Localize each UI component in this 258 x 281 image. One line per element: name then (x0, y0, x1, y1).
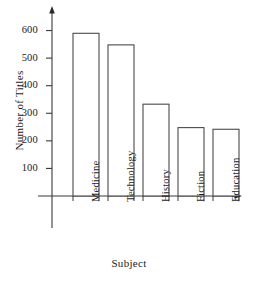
y-axis-tick-label: 600 (10, 25, 38, 36)
x-axis-category-label: Fiction (196, 171, 207, 202)
y-axis-ticks (46, 31, 52, 169)
y-axis-title: Number of Titles (14, 56, 25, 166)
chart-canvas (0, 0, 258, 281)
x-axis-category-label: Medicine (91, 161, 102, 202)
y-axis-arrow-icon (49, 6, 55, 14)
axes (38, 6, 242, 228)
x-axis-category-label: History (161, 169, 172, 202)
bar-chart: 100200300400500600 Number of Titles Medi… (0, 0, 258, 281)
x-axis-category-label: Technology (126, 151, 137, 202)
x-axis-title: Subject (0, 258, 258, 269)
x-axis-category-label: Education (231, 158, 242, 202)
